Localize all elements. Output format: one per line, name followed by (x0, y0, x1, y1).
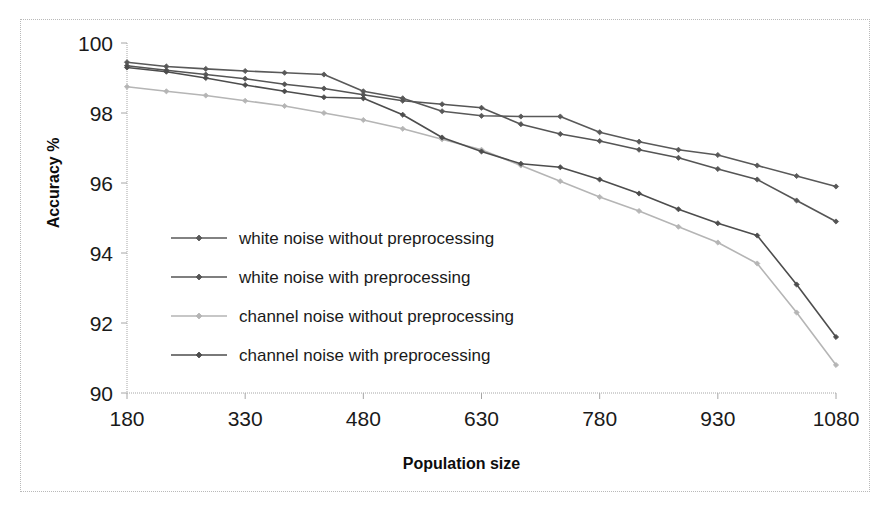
data-point-marker (558, 131, 563, 136)
data-point-marker (124, 84, 129, 89)
data-point-marker (636, 139, 641, 144)
y-tick-label: 100 (78, 32, 113, 55)
data-point-marker (361, 96, 366, 101)
legend-marker-2 (196, 313, 202, 319)
data-point-marker (597, 194, 602, 199)
legend-marker-0 (196, 235, 202, 241)
x-tick-label: 480 (346, 407, 381, 430)
data-point-marker (518, 114, 523, 119)
data-point-marker (597, 177, 602, 182)
data-point-marker (833, 184, 838, 189)
legend-label-0: white noise without preprocessing (238, 229, 494, 248)
y-tick-label: 90 (90, 382, 113, 405)
data-point-marker (243, 68, 248, 73)
data-point-marker (203, 93, 208, 98)
x-tick-label: 330 (228, 407, 263, 430)
series-line-1 (127, 66, 836, 222)
data-point-marker (321, 110, 326, 115)
data-point-marker (636, 147, 641, 152)
legend-marker-1 (196, 274, 202, 280)
legend-label-1: white noise with preprocessing (238, 268, 471, 287)
data-point-marker (676, 224, 681, 229)
y-tick-label: 98 (90, 102, 113, 125)
data-point-marker (164, 89, 169, 94)
data-point-marker (597, 138, 602, 143)
data-point-marker (597, 130, 602, 135)
chart-figure: 9092949698100 1803304806307809301080 whi… (0, 0, 893, 527)
x-tick-label: 180 (109, 407, 144, 430)
data-point-marker (243, 82, 248, 87)
y-axis-title: Accuracy % (45, 138, 62, 229)
y-tick-label: 92 (90, 312, 113, 335)
data-point-marker (558, 114, 563, 119)
data-point-marker (282, 70, 287, 75)
x-tick-label: 1080 (813, 407, 860, 430)
x-tick-label: 780 (582, 407, 617, 430)
axis-lines (127, 43, 836, 393)
x-axis-ticks: 1803304806307809301080 (109, 393, 859, 430)
data-point-marker (636, 208, 641, 213)
data-point-marker (243, 98, 248, 103)
data-point-marker (794, 173, 799, 178)
data-point-marker (479, 105, 484, 110)
y-tick-label: 96 (90, 172, 113, 195)
data-point-marker (321, 86, 326, 91)
x-tick-label: 630 (464, 407, 499, 430)
data-point-marker (321, 95, 326, 100)
chart-plot-frame: 9092949698100 1803304806307809301080 whi… (20, 19, 870, 492)
data-point-marker (282, 89, 287, 94)
data-point-marker (479, 113, 484, 118)
data-point-marker (676, 207, 681, 212)
data-point-marker (282, 103, 287, 108)
data-point-marker (440, 102, 445, 107)
data-point-marker (558, 179, 563, 184)
chart-svg: 9092949698100 1803304806307809301080 whi… (21, 20, 869, 491)
data-point-marker (518, 122, 523, 127)
chart-legend: white noise without preprocessingwhite n… (171, 229, 514, 365)
data-point-marker (755, 163, 760, 168)
legend-marker-3 (196, 352, 202, 358)
legend-label-2: channel noise without preprocessing (239, 307, 514, 326)
data-point-marker (282, 82, 287, 87)
legend-label-3: channel noise with preprocessing (239, 346, 490, 365)
x-axis-title: Population size (403, 455, 520, 472)
data-point-marker (636, 191, 641, 196)
data-point-marker (440, 109, 445, 114)
data-point-marker (676, 155, 681, 160)
y-axis-ticks: 9092949698100 (78, 32, 127, 405)
y-tick-label: 94 (90, 242, 114, 265)
data-point-marker (715, 166, 720, 171)
data-point-marker (203, 75, 208, 80)
data-point-marker (715, 221, 720, 226)
data-point-marker (321, 72, 326, 77)
data-point-marker (715, 152, 720, 157)
data-point-marker (676, 147, 681, 152)
data-point-marker (400, 126, 405, 131)
data-point-marker (558, 165, 563, 170)
data-point-marker (361, 117, 366, 122)
data-point-marker (243, 76, 248, 81)
data-point-marker (203, 66, 208, 71)
series-line-0 (127, 62, 836, 186)
x-tick-label: 930 (700, 407, 735, 430)
